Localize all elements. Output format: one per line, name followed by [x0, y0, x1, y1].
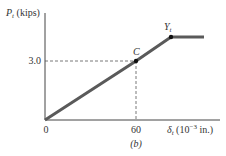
point-c-marker: [134, 59, 138, 63]
origin-label: 0: [44, 124, 49, 135]
load-deflection-chart: Pt (kips) 3.0 0 60 δt (10−3 in.) (b) C Y…: [0, 0, 226, 156]
x-axis-label: δt (10−3 in.): [167, 123, 213, 137]
load-deflection-curve: [45, 37, 204, 120]
y-tick-label: 3.0: [29, 55, 42, 66]
figure-caption: (b): [130, 138, 142, 150]
point-yt-label: Yt: [164, 21, 173, 34]
point-c-label: C: [133, 46, 140, 57]
y-axis-label: Pt (kips): [5, 7, 40, 20]
x-tick-label: 60: [131, 124, 141, 135]
point-yt-marker: [169, 35, 173, 39]
